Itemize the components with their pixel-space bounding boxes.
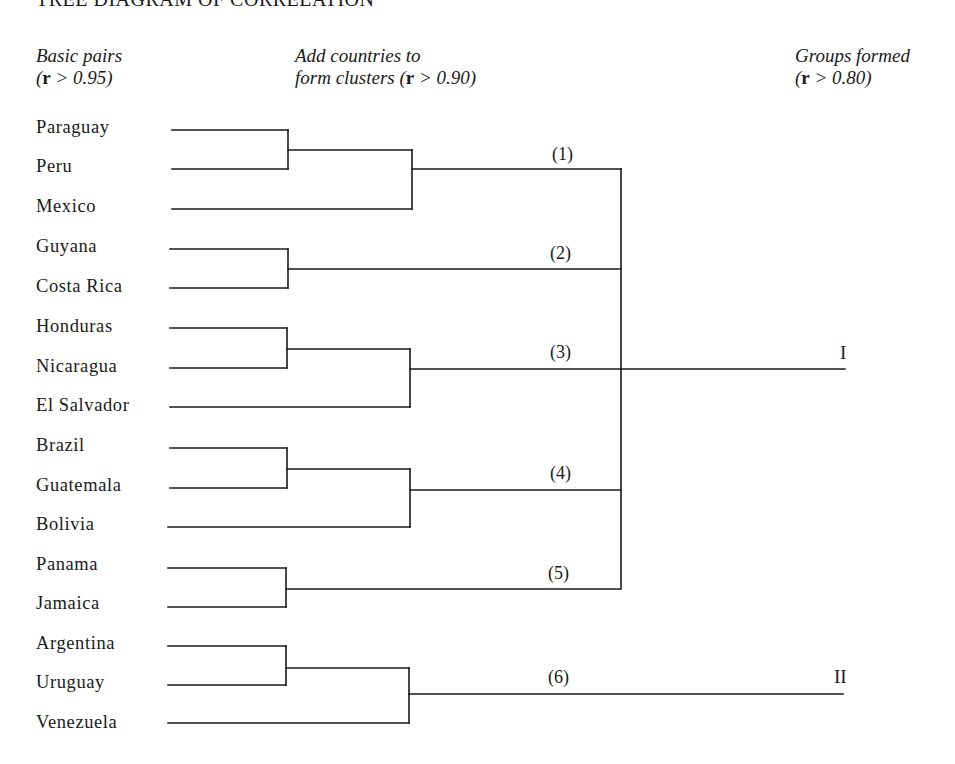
cluster-4-branches (168, 448, 621, 527)
cluster-5-branches (168, 568, 620, 607)
cluster-6-branches (168, 646, 843, 723)
cluster-2-branches (170, 249, 621, 288)
dendrogram-lines (0, 0, 955, 764)
cluster-3-branches (170, 328, 621, 407)
group-I-branches (621, 169, 845, 589)
cluster-1-branches (172, 130, 621, 209)
